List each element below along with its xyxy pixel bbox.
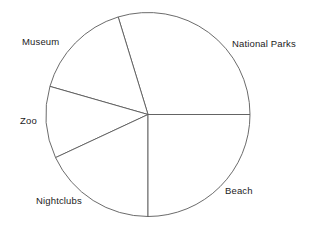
pie-label-museum: Museum [22,36,59,47]
pie-label-nightclubs: Nightclubs [36,195,82,206]
pie-label-national-parks: National Parks [232,38,296,49]
pie-label-beach: Beach [225,185,253,196]
pie-label-zoo: Zoo [20,115,37,126]
pie-slice-beach[interactable] [148,115,250,217]
pie-chart-canvas [0,0,321,228]
pie-slice-group [46,13,250,217]
pie-chart: National Parks Museum Zoo Nightclubs Bea… [0,0,321,228]
